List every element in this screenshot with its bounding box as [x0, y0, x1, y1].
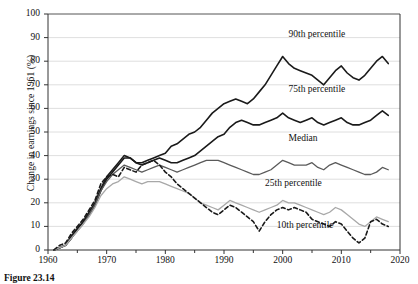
series-label-25th-percentile: 25th percentile [265, 178, 322, 188]
y-tick-label: 90 [14, 32, 40, 42]
line-chart [0, 0, 418, 284]
x-tick-label: 1960 [28, 255, 68, 265]
x-tick-label: 2010 [321, 255, 361, 265]
y-tick-label: 100 [14, 8, 40, 18]
y-tick-label: 0 [14, 244, 40, 254]
axis-ticks [44, 14, 400, 254]
x-tick-label: 2020 [380, 255, 418, 265]
series-label-90th-percentile: 90th percentile [289, 29, 346, 39]
y-tick-label: 40 [14, 150, 40, 160]
y-tick-label: 20 [14, 197, 40, 207]
y-tick-label: 60 [14, 102, 40, 112]
x-tick-label: 2000 [263, 255, 303, 265]
y-tick-label: 50 [14, 126, 40, 136]
y-tick-label: 10 [14, 220, 40, 230]
series-label-75th-percentile: 75th percentile [289, 84, 346, 94]
y-tick-label: 30 [14, 173, 40, 183]
y-tick-label: 70 [14, 79, 40, 89]
y-tick-label: 80 [14, 55, 40, 65]
figure-caption: Figure 23.14 [4, 273, 55, 284]
gridlines [48, 14, 400, 226]
series-label-10th-percentile: 10th percentile [277, 220, 334, 230]
series-label-median: Median [289, 133, 318, 143]
x-tick-label: 1990 [204, 255, 244, 265]
x-tick-label: 1980 [145, 255, 185, 265]
figure-container: Change in earnings since 1961 (%) 010203… [0, 0, 418, 284]
x-tick-label: 1970 [87, 255, 127, 265]
